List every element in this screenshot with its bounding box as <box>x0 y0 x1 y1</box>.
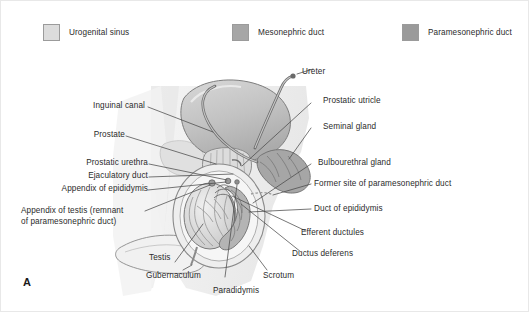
label-appendix-of-testis: Appendix of testis (remnant of parameson… <box>21 206 161 227</box>
legend-item-paramesonephric-duct: Paramesonephric duct <box>402 23 512 41</box>
legend-label-paramesonephric-duct: Paramesonephric duct <box>428 28 512 37</box>
legend: Urogenital sinus Mesonephric duct Parame… <box>1 23 529 49</box>
figure-panel: Urogenital sinus Mesonephric duct Parame… <box>0 0 529 312</box>
label-prostatic-utricle: Prostatic utricle <box>323 96 423 107</box>
legend-item-mesonephric-duct: Mesonephric duct <box>232 23 324 41</box>
appendix-of-epididymis-shape <box>225 178 231 184</box>
label-paradidymis: Paradidymis <box>213 286 293 297</box>
label-scrotum: Scrotum <box>263 271 333 282</box>
label-appendix-of-epididymis: Appendix of epididymis <box>11 184 148 195</box>
legend-swatch-mesonephric-duct <box>232 24 249 41</box>
label-former-site-of-paramesonephric-duct: Former site of paramesonephric duct <box>314 179 529 190</box>
legend-swatch-urogenital-sinus <box>43 24 60 41</box>
label-prostate: Prostate <box>21 130 125 141</box>
legend-item-urogenital-sinus: Urogenital sinus <box>43 23 129 41</box>
label-testis: Testis <box>149 253 199 264</box>
legend-label-urogenital-sinus: Urogenital sinus <box>69 28 129 37</box>
label-duct-of-epididymis: Duct of epididymis <box>314 204 434 215</box>
label-ejaculatory-duct: Ejaculatory duct <box>21 171 148 182</box>
label-gubernaculum: Gubernaculum <box>146 271 236 282</box>
label-ductus-deferens: Ductus deferens <box>292 249 402 260</box>
panel-letter: A <box>23 276 31 288</box>
label-inguinal-canal: Inguinal canal <box>21 101 145 112</box>
label-prostatic-urethra: Prostatic urethra <box>21 158 148 169</box>
label-efferent-ductules: Efferent ductules <box>301 228 411 239</box>
label-ureter: Ureter <box>302 67 372 78</box>
legend-swatch-paramesonephric-duct <box>402 24 419 41</box>
paradidymis-shape <box>235 180 240 185</box>
label-bulbourethral-gland: Bulbourethral gland <box>318 158 438 169</box>
legend-label-mesonephric-duct: Mesonephric duct <box>258 28 324 37</box>
label-seminal-gland: Seminal gland <box>323 122 423 133</box>
